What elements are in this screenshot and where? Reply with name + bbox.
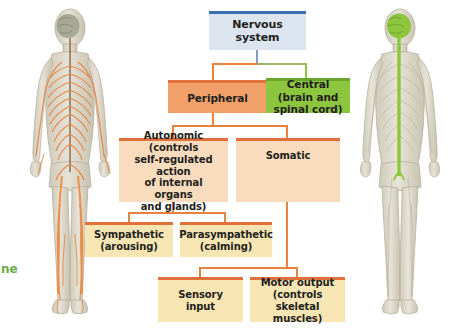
box-motor-output-line2: (controls skeletal [253, 289, 342, 313]
box-central[interactable]: Central (brain and spinal cord) [266, 78, 350, 113]
box-sensory-input[interactable]: Sensory input [158, 277, 243, 322]
central-nervous-system-figure [352, 4, 448, 324]
box-central-line2: spinal cord) [269, 103, 347, 115]
box-nervous-system-text: Nervous system [226, 19, 289, 45]
diagram-canvas: ne Nervous system Peripheral Central (br… [0, 0, 449, 328]
box-autonomic-line3: of internal organs [122, 177, 225, 201]
box-autonomic-line4: and glands) [122, 201, 225, 213]
connector-split-level1-left [212, 63, 258, 65]
connector-somatic-down [286, 202, 288, 268]
connector-root-down [256, 50, 258, 64]
box-central-line1: Central (brain and [269, 78, 347, 103]
box-parasympathetic-line2: (calming) [176, 241, 276, 253]
connector-to-somatic [286, 125, 288, 138]
box-autonomic-line2: self-regulated action [122, 154, 225, 178]
box-sensory-input-line2: input [175, 301, 226, 313]
box-peripheral[interactable]: Peripheral [168, 80, 267, 113]
box-sympathetic[interactable]: Sympathetic (arousing) [85, 222, 173, 257]
box-nervous-system-line2: system [229, 32, 286, 45]
box-parasympathetic[interactable]: Parasympathetic (calming) [180, 222, 272, 257]
box-somatic-line1: Somatic [263, 150, 314, 162]
box-parasympathetic-line1: Parasympathetic [176, 229, 276, 241]
box-motor-output[interactable]: Motor output (controls skeletal muscles) [250, 277, 345, 322]
connector-split-level2 [172, 125, 287, 127]
box-somatic[interactable]: Somatic [236, 138, 340, 202]
box-peripheral-line1: Peripheral [184, 92, 251, 104]
box-somatic-text: Somatic [260, 150, 317, 162]
brain-shape [57, 14, 80, 38]
box-autonomic-line1: Autonomic (controls [122, 130, 225, 154]
box-sympathetic-line1: Sympathetic [91, 229, 167, 241]
box-sensory-input-line1: Sensory [175, 289, 226, 301]
box-sensory-input-text: Sensory input [172, 289, 229, 313]
box-autonomic[interactable]: Autonomic (controls self-regulated actio… [119, 138, 228, 202]
box-autonomic-text: Autonomic (controls self-regulated actio… [119, 130, 228, 213]
box-sympathetic-line2: (arousing) [91, 241, 167, 253]
box-motor-output-text: Motor output (controls skeletal muscles) [250, 277, 345, 324]
box-parasympathetic-text: Parasympathetic (calming) [173, 229, 279, 253]
box-peripheral-text: Peripheral [181, 92, 254, 104]
box-central-text: Central (brain and spinal cord) [266, 78, 350, 115]
connector-split-level4 [199, 267, 298, 269]
connector-to-peripheral [212, 63, 214, 80]
cropped-caption-label: ne [1, 262, 18, 276]
box-motor-output-line3: muscles) [253, 313, 342, 325]
box-nervous-system[interactable]: Nervous system [209, 11, 306, 50]
box-motor-output-line1: Motor output [253, 277, 342, 289]
box-sympathetic-text: Sympathetic (arousing) [88, 229, 170, 253]
peripheral-nervous-system-figure [18, 4, 122, 324]
connector-to-central [305, 63, 307, 78]
